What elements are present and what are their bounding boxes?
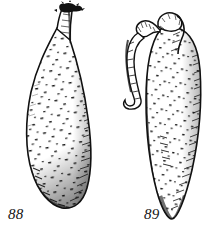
figure-89-knob bbox=[158, 13, 182, 31]
figure-89-appendage bbox=[124, 33, 144, 109]
figure-89-label: 89 bbox=[144, 207, 160, 222]
figure-88 bbox=[20, 0, 105, 220]
plate-drawing bbox=[0, 0, 215, 232]
figure-89 bbox=[124, 13, 210, 225]
figure-88-body-texture bbox=[20, 20, 105, 220]
illustration-plate: 88 89 bbox=[0, 0, 215, 232]
figure-88-tip bbox=[54, 0, 85, 13]
figure-88-label: 88 bbox=[8, 207, 24, 222]
